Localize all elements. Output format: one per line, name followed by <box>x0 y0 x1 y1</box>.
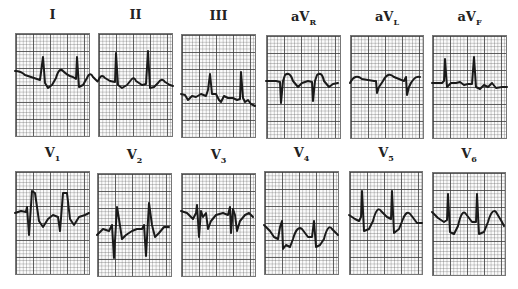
ecg-trace <box>15 171 90 275</box>
lead-label: V4 <box>264 145 339 163</box>
lead-label: aVL <box>350 9 424 27</box>
lead-label: aVF <box>432 9 507 27</box>
lead-V5-panel: V5 <box>349 171 423 275</box>
lead-V3-panel: V3 <box>181 173 256 277</box>
ecg-trace <box>15 33 90 137</box>
lead-aVR-panel: aVR <box>266 35 341 139</box>
ecg-trace <box>181 173 256 277</box>
ecg-trace <box>98 33 173 137</box>
lead-label: V5 <box>349 145 423 163</box>
lead-III-panel: III <box>181 34 256 138</box>
lead-label: V6 <box>432 146 506 164</box>
lead-label: V1 <box>15 145 90 163</box>
lead-label: V3 <box>181 147 256 165</box>
lead-aVL-panel: aVL <box>350 35 424 139</box>
lead-label: aVR <box>266 9 341 27</box>
ecg-trace <box>264 171 339 275</box>
lead-label: V2 <box>97 147 172 165</box>
ecg-trace <box>349 171 423 275</box>
lead-II-panel: II <box>98 33 173 137</box>
lead-V1-panel: V1 <box>15 171 90 275</box>
ecg-trace <box>432 172 506 276</box>
lead-label: I <box>15 7 90 25</box>
ecg-trace <box>266 35 341 139</box>
lead-I-panel: I <box>15 33 90 137</box>
ecg-trace <box>181 34 256 138</box>
lead-label: III <box>181 8 256 26</box>
lead-V2-panel: V2 <box>97 173 172 277</box>
lead-V4-panel: V4 <box>264 171 339 275</box>
ecg-trace <box>350 35 424 139</box>
lead-V6-panel: V6 <box>432 172 506 276</box>
ecg-trace <box>97 173 172 277</box>
lead-aVF-panel: aVF <box>432 35 507 139</box>
lead-label: II <box>98 7 173 25</box>
ecg-trace <box>432 35 507 139</box>
